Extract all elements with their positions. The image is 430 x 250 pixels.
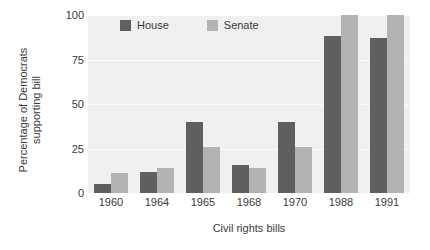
x-axis-title: Civil rights bills	[88, 222, 410, 234]
y-axis-tick-labels: 0255075100	[48, 0, 84, 250]
y-axis-tick-label: 100	[48, 10, 84, 21]
x-axis-tick-labels: 1960196419651968197019881991	[88, 196, 410, 212]
chart-legend: HouseSenate	[120, 19, 259, 31]
bar-group-1970	[272, 15, 318, 193]
y-axis-title: Percentage of Democrats supporting bill	[17, 22, 43, 198]
bar-chart: Percentage of Democrats supporting bill …	[0, 0, 430, 250]
bar-group-1965	[180, 15, 226, 193]
legend-label: House	[137, 19, 169, 31]
legend-item-house[interactable]: House	[120, 19, 169, 31]
bar-group-1968	[226, 15, 272, 193]
bars-layer	[88, 15, 410, 193]
y-axis-tick-label: 0	[48, 188, 84, 199]
legend-swatch-house-icon	[120, 20, 131, 31]
bar-group-1991	[364, 15, 410, 193]
bar-senate-1991	[387, 15, 404, 193]
y-axis-tick-label: 75	[48, 55, 84, 66]
bar-senate-1970	[295, 147, 312, 193]
bar-house-1960	[94, 184, 111, 193]
bar-house-1970	[278, 122, 295, 193]
bar-house-1965	[186, 122, 203, 193]
bar-house-1964	[140, 172, 157, 193]
x-axis-tick-label: 1970	[272, 196, 318, 212]
y-axis-tick-label: 50	[48, 99, 84, 110]
legend-item-senate[interactable]: Senate	[207, 19, 259, 31]
bar-house-1991	[370, 38, 387, 193]
bar-senate-1988	[341, 15, 358, 193]
bar-senate-1965	[203, 147, 220, 193]
x-axis-tick-label: 1964	[134, 196, 180, 212]
plot-area	[88, 15, 410, 193]
bar-senate-1968	[249, 168, 266, 193]
x-axis-tick-label: 1965	[180, 196, 226, 212]
legend-swatch-senate-icon	[207, 20, 218, 31]
bar-house-1968	[232, 165, 249, 193]
bar-group-1988	[318, 15, 364, 193]
bar-group-1960	[88, 15, 134, 193]
y-axis-tick-label: 25	[48, 144, 84, 155]
x-axis-tick-label: 1988	[318, 196, 364, 212]
bar-house-1988	[324, 36, 341, 193]
legend-label: Senate	[224, 19, 259, 31]
x-axis-tick-label: 1968	[226, 196, 272, 212]
x-axis-tick-label: 1991	[364, 196, 410, 212]
bar-senate-1960	[111, 173, 128, 193]
bar-group-1964	[134, 15, 180, 193]
bar-senate-1964	[157, 168, 174, 193]
x-axis-tick-label: 1960	[88, 196, 134, 212]
